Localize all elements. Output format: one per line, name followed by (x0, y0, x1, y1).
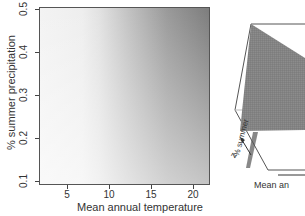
y-tick (35, 181, 39, 182)
x-tick-label: 10 (99, 189, 119, 200)
heatmap-plot-area (39, 7, 210, 185)
y-tick-label: 0.5 (19, 0, 29, 19)
surface-mesh (240, 24, 305, 131)
x-tick-label: 5 (57, 189, 77, 200)
y-tick (35, 52, 39, 53)
x-tick-label: 20 (183, 189, 203, 200)
y-tick (35, 138, 39, 139)
y-tick-label: 0.1 (19, 171, 29, 191)
y-axis-label: % summer precipitation (5, 3, 18, 183)
x-axis-label: Mean annual temperature (60, 201, 220, 214)
surface-3d-panel: z % summer Mean an (222, 0, 305, 216)
y-tick-label: 0.3 (19, 85, 29, 105)
y-tick-label: 0.4 (19, 42, 29, 62)
y-tick-label: 0.2 (19, 128, 29, 148)
heatmap-panel: 0.5 0.4 0.3 0.2 0.1 5 10 15 20 Mean annu… (0, 0, 222, 216)
x-axis-label-3d: Mean an (254, 180, 289, 190)
y-tick (35, 9, 39, 10)
x-tick-label: 15 (141, 189, 161, 200)
y-tick (35, 95, 39, 96)
